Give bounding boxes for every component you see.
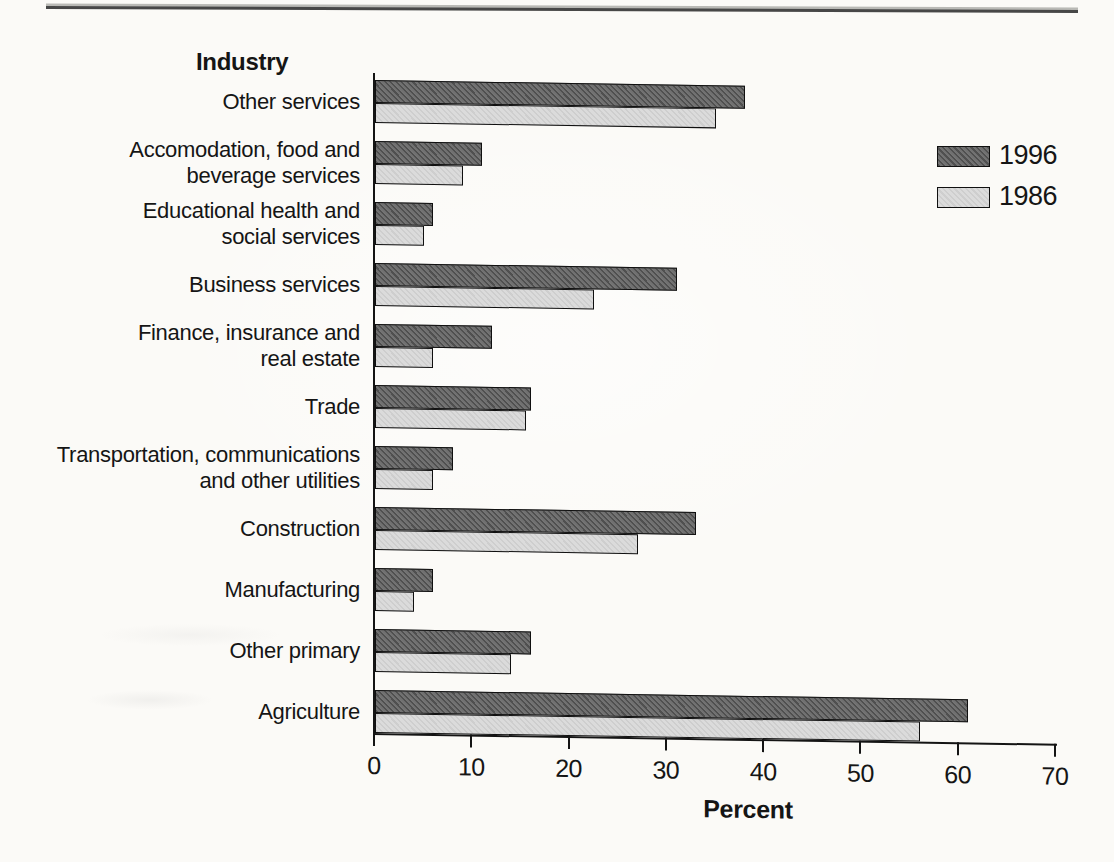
legend-item-1996: 1996	[937, 146, 1057, 167]
bar-1986	[375, 591, 414, 612]
bar-1986	[375, 347, 433, 368]
bar-1986	[375, 286, 594, 309]
x-tick-label: 40	[733, 757, 793, 787]
x-tick-label: 20	[539, 754, 599, 784]
legend-swatch-1986	[937, 187, 990, 208]
x-tick-label: 50	[830, 758, 890, 788]
category-label: Accomodation, food andbeverage services	[0, 141, 360, 184]
x-tick-label: 60	[928, 760, 988, 790]
bar-1986	[375, 164, 463, 185]
category-labels: Other servicesAccomodation, food andbeve…	[0, 77, 360, 777]
bar-1996	[375, 324, 492, 349]
bar-1996	[375, 629, 531, 654]
category-label: Agriculture	[0, 690, 360, 733]
legend: 1996 1986	[937, 146, 1057, 228]
x-tick	[470, 735, 472, 748]
category-label: Trade	[0, 385, 360, 428]
x-tick-label: 10	[441, 752, 501, 782]
chart-title: Industry	[196, 48, 288, 76]
category-label: Construction	[0, 507, 360, 550]
bar-1986	[375, 103, 716, 128]
legend-swatch-1996	[937, 146, 990, 167]
x-axis-label: Percent	[643, 793, 853, 825]
x-tick	[762, 739, 764, 752]
bar-1996	[375, 202, 433, 226]
bar-1996	[375, 568, 433, 592]
category-label: Manufacturing	[0, 568, 360, 611]
bar-1986	[375, 469, 433, 490]
x-tick	[568, 736, 570, 749]
bar-1986	[375, 530, 638, 554]
bar-1986	[375, 225, 424, 246]
x-tick	[665, 738, 667, 751]
category-label: Business services	[0, 263, 360, 306]
bar-1996	[375, 446, 453, 470]
x-tick	[859, 741, 861, 754]
page: Industry Other servicesAccomodation, foo…	[0, 0, 1114, 862]
page-rule	[46, 6, 1078, 12]
x-tick	[1054, 744, 1056, 757]
bar-1986	[375, 408, 526, 430]
x-tick-label: 70	[1025, 761, 1085, 791]
x-tick	[957, 742, 959, 755]
legend-label: 1996	[999, 140, 1057, 171]
x-tick	[373, 733, 375, 746]
legend-item-1986: 1986	[937, 187, 1057, 208]
x-tick-label: 0	[344, 751, 404, 781]
category-label: Transportation, communicationsand other …	[0, 446, 360, 489]
bar-1986	[375, 652, 511, 674]
category-label: Educational health andsocial services	[0, 202, 360, 245]
legend-label: 1986	[999, 181, 1057, 212]
x-tick-label: 30	[636, 755, 696, 785]
bar-1996	[375, 141, 482, 166]
bar-1996	[375, 385, 531, 410]
category-label: Other primary	[0, 629, 360, 672]
category-label: Finance, insurance andreal estate	[0, 324, 360, 367]
category-label: Other services	[0, 80, 360, 123]
